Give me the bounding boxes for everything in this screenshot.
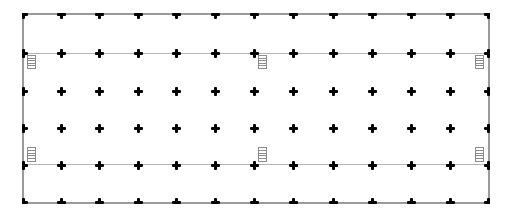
stair-tread: [28, 153, 35, 154]
stair-tread: [476, 158, 483, 159]
stair-tread: [28, 161, 35, 162]
stair-tread: [476, 58, 483, 59]
stair-tread: [259, 55, 266, 56]
stair-tread: [476, 161, 483, 162]
stair-tread: [259, 155, 266, 156]
stair-tread: [476, 60, 483, 61]
stair-tread: [259, 158, 266, 159]
stair-tread: [476, 150, 483, 151]
stair-bottom-middle: [258, 147, 267, 162]
stair-tread: [476, 68, 483, 69]
stair-tread: [28, 55, 35, 56]
stair-tread: [28, 147, 35, 148]
stair-top-right: [475, 55, 484, 69]
stair-tread: [259, 161, 266, 162]
stair-top-middle: [258, 55, 267, 69]
stair-tread: [476, 63, 483, 64]
stair-tread: [259, 65, 266, 66]
stair-bottom-left: [27, 147, 36, 162]
stair-tread: [28, 60, 35, 61]
stair-tread: [259, 147, 266, 148]
stair-tread: [28, 58, 35, 59]
stair-tread: [259, 68, 266, 69]
column-clip: [22, 13, 490, 204]
stair-tread: [28, 150, 35, 151]
floor-plan: [0, 0, 512, 217]
stair-top-left: [27, 55, 36, 69]
stair-tread: [28, 155, 35, 156]
stair-tread: [259, 153, 266, 154]
stair-tread: [28, 63, 35, 64]
stair-tread: [259, 60, 266, 61]
stair-tread: [28, 65, 35, 66]
stair-tread: [259, 150, 266, 151]
stair-tread: [259, 63, 266, 64]
stair-tread: [476, 147, 483, 148]
stair-bottom-right: [475, 147, 484, 162]
stair-tread: [28, 68, 35, 69]
stair-tread: [476, 55, 483, 56]
stair-tread: [259, 58, 266, 59]
stair-tread: [476, 65, 483, 66]
stair-tread: [28, 158, 35, 159]
stair-tread: [476, 153, 483, 154]
stair-tread: [476, 155, 483, 156]
structural-column: [484, 198, 490, 204]
